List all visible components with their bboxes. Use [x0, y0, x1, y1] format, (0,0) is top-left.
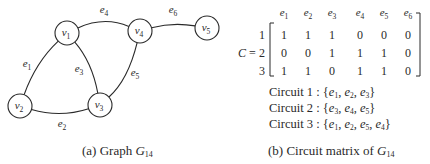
- matrix-cell: 1: [305, 64, 311, 78]
- edge-label-e4: e4: [100, 3, 109, 18]
- left-bracket: [270, 23, 274, 76]
- matrix-cell: 1: [381, 64, 387, 78]
- circuit-edge-set: {e1, e2, e5, e4}: [323, 117, 391, 131]
- circuit-edge-set: {e3, e4, e5}: [323, 101, 375, 115]
- column-header-e4: e4: [356, 6, 365, 21]
- edge-e6: [152, 24, 196, 27]
- matrix-cell: 0: [405, 64, 411, 78]
- graph-caption-prefix: (a) Graph: [82, 143, 135, 158]
- row-label: 2: [259, 46, 265, 60]
- matrix-cell: 1: [329, 46, 335, 60]
- circuit-label: Circuit 1 :: [269, 85, 323, 99]
- matrix-cell: 1: [357, 46, 363, 60]
- circuit-matrix: e1e2e3e4e5e6C=111100020011103110110: [236, 6, 426, 86]
- edge-label-e1: e1: [23, 57, 32, 72]
- vertex-v2: v2: [8, 94, 32, 118]
- edge-label-e2: e2: [58, 117, 67, 132]
- matrix-symbol: C=: [238, 46, 256, 60]
- matrix-cell: 1: [357, 64, 363, 78]
- graph-caption-subscript: 14: [145, 150, 153, 159]
- edge-label-e6: e6: [169, 3, 178, 18]
- vertex-v5: v5: [195, 16, 219, 40]
- graph-g14: e1e2e3e4e5e6v1v2v3v4v5: [0, 0, 230, 140]
- matrix-cell: 1: [281, 28, 287, 42]
- graph-caption: (a) Graph G14: [82, 143, 153, 159]
- matrix-caption-subscript: 14: [386, 150, 394, 159]
- circuit-edge-set: {e1, e2, e3}: [323, 85, 375, 99]
- column-header-e3: e3: [328, 6, 337, 21]
- matrix-caption-name: G: [377, 143, 386, 158]
- matrix-caption-prefix: (b) Circuit matrix of: [268, 143, 377, 158]
- matrix-cell: 0: [357, 28, 363, 42]
- column-header-e5: e5: [380, 6, 389, 21]
- matrix-cell: 0: [281, 46, 287, 60]
- matrix-cell: 1: [381, 46, 387, 60]
- edge-label-e3: e3: [75, 62, 84, 77]
- matrix-cell: 1: [281, 64, 287, 78]
- matrix-cell: 1: [305, 28, 311, 42]
- circuit-list: Circuit 1 : {e1, e2, e3}Circuit 2 : {e3,…: [269, 86, 391, 134]
- edge-e2: [31, 109, 88, 114]
- edge-e4: [78, 22, 129, 28]
- circuit-label: Circuit 2 :: [269, 101, 323, 115]
- matrix-cell: 0: [305, 46, 311, 60]
- vertex-v3: v3: [88, 93, 112, 117]
- matrix-cell: 1: [329, 28, 335, 42]
- row-label: 1: [259, 28, 265, 42]
- matrix-cell: 0: [329, 64, 335, 78]
- right-bracket: [416, 13, 420, 76]
- matrix-cell: 0: [405, 46, 411, 60]
- matrix-cell: 0: [381, 28, 387, 42]
- column-header-e2: e2: [304, 6, 313, 21]
- circuit-item: Circuit 1 : {e1, e2, e3}: [269, 86, 391, 102]
- row-label: 3: [259, 64, 265, 78]
- edge-label-e5: e5: [131, 66, 140, 81]
- matrix-cell: 0: [405, 28, 411, 42]
- column-header-e1: e1: [280, 6, 289, 21]
- circuit-label: Circuit 3 :: [269, 117, 323, 131]
- graph-caption-name: G: [135, 143, 144, 158]
- vertex-v1: v1: [55, 21, 79, 45]
- column-header-e6: e6: [404, 6, 413, 21]
- circuit-item: Circuit 2 : {e3, e4, e5}: [269, 102, 391, 118]
- matrix-caption: (b) Circuit matrix of G14: [268, 143, 394, 159]
- vertex-v4: v4: [128, 19, 152, 43]
- circuit-item: Circuit 3 : {e1, e2, e5, e4}: [269, 118, 391, 134]
